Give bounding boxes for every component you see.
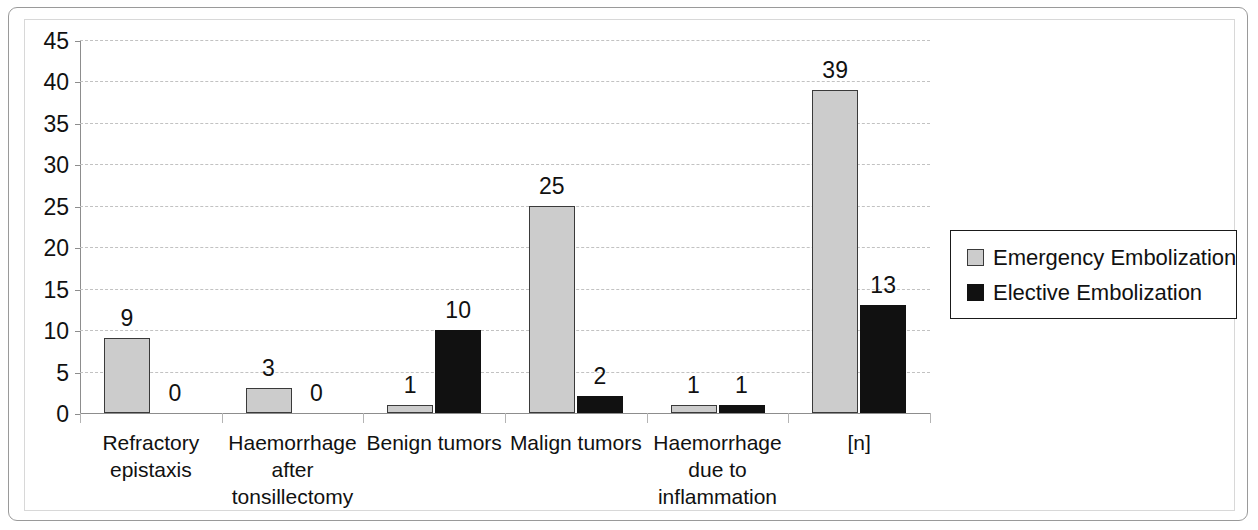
category-label-5: [n] <box>788 430 930 457</box>
y-axis-label-45: 45 <box>43 30 69 53</box>
chart-legend: Emergency Embolization Elective Emboliza… <box>950 230 1237 319</box>
bar-value-label-elective-4: 1 <box>735 374 748 397</box>
bar-elective-3 <box>577 396 623 413</box>
gridline-5: 5 <box>80 372 930 373</box>
y-tick-mark-30 <box>75 165 80 166</box>
gridline-45: 45 <box>80 40 930 41</box>
category-separator-tick-0 <box>80 413 81 423</box>
category-separator-tick-1 <box>222 413 223 423</box>
bar-value-label-elective-5: 13 <box>870 274 896 297</box>
y-axis-label-10: 10 <box>43 320 69 343</box>
y-tick-mark-10 <box>75 331 80 332</box>
bar-emergency-3 <box>529 206 575 413</box>
category-separator-tick-5 <box>788 413 789 423</box>
bar-value-label-emergency-3: 25 <box>539 175 565 198</box>
y-tick-mark-15 <box>75 290 80 291</box>
y-tick-mark-20 <box>75 248 80 249</box>
category-label-line: inflammation <box>647 484 789 511</box>
bar-value-label-emergency-5: 39 <box>822 59 848 82</box>
bar-value-label-emergency-0: 9 <box>120 307 133 330</box>
category-label-line: tonsillectomy <box>222 484 364 511</box>
category-label-4: Haemorrhagedue toinflammation <box>647 430 789 511</box>
category-label-line: due to <box>647 457 789 484</box>
y-axis-label-15: 15 <box>43 278 69 301</box>
emergency-swatch-icon <box>967 249 984 266</box>
chart-figure: 454035302520151050 9030110252113913 Refr… <box>0 0 1258 530</box>
y-tick-mark-40 <box>75 82 80 83</box>
category-label-line: Haemorrhage <box>647 430 789 457</box>
y-tick-mark-25 <box>75 207 80 208</box>
bar-value-label-elective-2: 10 <box>445 299 471 322</box>
bar-value-label-emergency-4: 1 <box>687 374 700 397</box>
category-label-line: Haemorrhage <box>222 430 364 457</box>
y-tick-mark-35 <box>75 124 80 125</box>
category-label-line: epistaxis <box>80 457 222 484</box>
gridline-35: 35 <box>80 123 930 124</box>
category-label-0: Refractoryepistaxis <box>80 430 222 484</box>
y-axis-label-25: 25 <box>43 195 69 218</box>
category-label-line: after <box>222 457 364 484</box>
bar-elective-5 <box>860 305 906 413</box>
gridline-30: 30 <box>80 164 930 165</box>
plot-area: 454035302520151050 9030110252113913 <box>80 40 930 413</box>
legend-label-emergency: Emergency Embolization <box>993 247 1236 269</box>
category-label-line: Benign tumors <box>363 430 505 457</box>
bar-value-label-emergency-1: 3 <box>262 357 275 380</box>
category-label-line: Malign tumors <box>505 430 647 457</box>
legend-item-elective[interactable]: Elective Embolization <box>967 275 1236 310</box>
category-label-3: Malign tumors <box>505 430 647 457</box>
gridline-25: 25 <box>80 206 930 207</box>
category-label-2: Benign tumors <box>363 430 505 457</box>
y-axis-label-30: 30 <box>43 154 69 177</box>
legend-label-elective: Elective Embolization <box>993 282 1202 304</box>
y-tick-mark-45 <box>75 41 80 42</box>
gridline-40: 40 <box>80 81 930 82</box>
bar-emergency-4 <box>671 405 717 413</box>
bar-value-label-elective-3: 2 <box>593 365 606 388</box>
y-axis-label-40: 40 <box>43 71 69 94</box>
category-separator-tick-4 <box>647 413 648 423</box>
category-label-1: Haemorrhageaftertonsillectomy <box>222 430 364 511</box>
bar-value-label-elective-1: 0 <box>310 382 323 405</box>
bar-emergency-2 <box>387 405 433 413</box>
category-separator-tick-2 <box>363 413 364 423</box>
y-tick-mark-5 <box>75 373 80 374</box>
gridline-20: 20 <box>80 247 930 248</box>
bar-emergency-1 <box>246 388 292 413</box>
category-separator-tick-3 <box>505 413 506 423</box>
category-separator-tick-6 <box>930 413 931 423</box>
category-label-line: Refractory <box>80 430 222 457</box>
y-axis-label-5: 5 <box>56 361 69 384</box>
y-axis-label-0: 0 <box>56 403 69 426</box>
bar-elective-4 <box>719 405 765 413</box>
bar-emergency-5 <box>812 90 858 413</box>
gridline-15: 15 <box>80 289 930 290</box>
bar-elective-2 <box>435 330 481 413</box>
y-axis-label-20: 20 <box>43 237 69 260</box>
y-axis-label-35: 35 <box>43 112 69 135</box>
legend-item-emergency[interactable]: Emergency Embolization <box>967 240 1236 275</box>
bar-emergency-0 <box>104 338 150 413</box>
gridline-10: 10 <box>80 330 930 331</box>
elective-swatch-icon <box>967 284 984 301</box>
bar-value-label-emergency-2: 1 <box>404 374 417 397</box>
category-label-line: [n] <box>788 430 930 457</box>
bar-value-label-elective-0: 0 <box>168 382 181 405</box>
